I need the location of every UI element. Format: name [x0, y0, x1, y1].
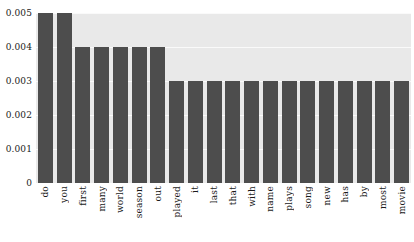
bar [113, 47, 128, 183]
bar [132, 47, 147, 183]
bar [300, 81, 315, 183]
x-axis-tick-label: you [59, 186, 69, 203]
bar [375, 81, 390, 183]
x-axis-tick-label: it [190, 186, 200, 193]
bar [357, 81, 372, 183]
x-axis-tick-label: new [322, 186, 332, 205]
x-axis: doyoufirstmanyworldseasonoutplayeditlast… [36, 184, 411, 242]
y-axis-tick-label: 0.003 [6, 76, 32, 86]
bar [150, 47, 165, 183]
x-axis-tick-label: played [172, 186, 182, 217]
bar [207, 81, 222, 183]
bar [188, 81, 203, 183]
bar [394, 81, 409, 183]
x-axis-tick-label: last [209, 186, 219, 203]
bar [169, 81, 184, 183]
bar [244, 81, 259, 183]
x-axis-tick-label: name [265, 186, 275, 212]
bar [319, 81, 334, 183]
x-axis-tick-label: that [228, 186, 238, 205]
y-axis-tick-label: 0.002 [6, 110, 32, 120]
bar [338, 81, 353, 183]
y-axis-tick-label: 0 [26, 178, 32, 188]
bar [57, 13, 72, 183]
bar [75, 47, 90, 183]
x-axis-tick-label: season [134, 186, 144, 218]
y-axis-tick-label: 0.005 [6, 8, 32, 18]
bar-chart: 00.0010.0020.0030.0040.005 doyoufirstman… [0, 0, 414, 242]
bar [225, 81, 240, 183]
y-axis-tick-label: 0.004 [6, 42, 32, 52]
x-axis-tick-label: with [247, 186, 257, 207]
y-axis-tick-label: 0.001 [6, 144, 32, 154]
x-axis-tick-label: most [378, 186, 388, 209]
bar [38, 13, 53, 183]
x-axis-tick-label: by [359, 186, 369, 197]
bar [282, 81, 297, 183]
bars-group [36, 13, 411, 183]
x-axis-tick-label: world [115, 186, 125, 213]
plot-area [36, 13, 411, 183]
x-axis-tick-label: out [153, 186, 163, 201]
x-axis-tick-label: many [97, 186, 107, 212]
x-axis-tick-label: plays [284, 186, 294, 211]
x-axis-tick-label: movie [397, 186, 407, 214]
x-axis-tick-label: do [40, 186, 50, 198]
bar [94, 47, 109, 183]
bar [263, 81, 278, 183]
x-axis-tick-label: first [78, 186, 88, 206]
x-axis-tick-label: song [303, 186, 313, 208]
y-axis: 00.0010.0020.0030.0040.005 [0, 0, 36, 242]
x-axis-tick-label: has [340, 186, 350, 202]
